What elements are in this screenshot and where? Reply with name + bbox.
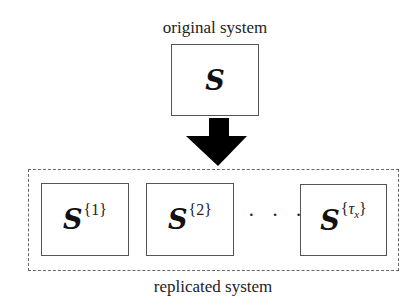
replica-symbol: S — [168, 204, 188, 235]
original-system-label: original system — [140, 18, 290, 38]
original-symbol: S — [205, 65, 225, 96]
replica-index: {τx} — [341, 200, 367, 220]
ellipsis: · · · — [248, 204, 308, 227]
replica-box-1: S{1} — [41, 183, 129, 256]
original-system-box: S — [171, 44, 259, 116]
replicated-system-label: replicated system — [130, 277, 296, 297]
replica-box-2: S{2} — [146, 183, 234, 256]
arrow-down-icon — [184, 118, 248, 168]
replica-symbol: S — [320, 205, 340, 236]
replica-index: {1} — [84, 201, 107, 219]
replica-box-tau: S{τx} — [300, 184, 387, 256]
replica-index: {2} — [189, 201, 212, 219]
replica-symbol: S — [63, 204, 83, 235]
